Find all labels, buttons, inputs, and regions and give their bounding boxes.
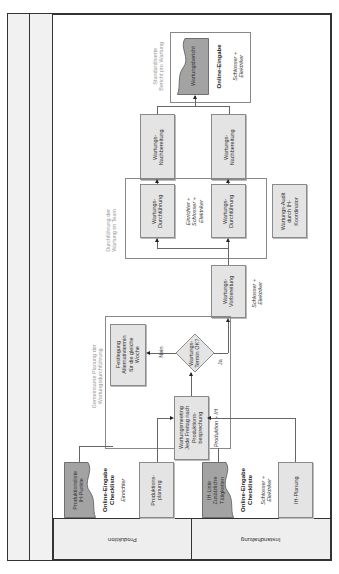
left-strip-outer [8, 14, 30, 560]
ih-liste-method: Online-Eingabe Checkliste [236, 462, 258, 518]
bericht-group-label: Standardisierte Bericht pro Wartung [146, 35, 170, 97]
ja-label: Ja [214, 355, 226, 369]
vorbereitung-box: Wartungs- Vorbereitung [211, 265, 246, 318]
produktionsliste-role: Einrichter [118, 462, 130, 518]
wartungsbericht-document: Wartungsbericht [177, 38, 209, 95]
nachbereitung-box-2: Wartungs- Nachbereitung [211, 114, 246, 180]
wartungsmeeting-box: Wartungsmeeting Jede Freitag nach Produk… [174, 396, 209, 460]
produktionsliste-method: Online-Eingabe Checkliste [98, 462, 120, 518]
bericht-method: Online-Eingabe [212, 38, 226, 95]
nachbereitung-box-1: Wartungs- Nachbereitung [140, 114, 175, 180]
nein-label: Nein [155, 340, 167, 364]
left-strip-inner [30, 14, 53, 560]
vorbereitung-role: Schlosser + Elektriker [247, 268, 267, 318]
durchfuehrung-box-1: Wartungs- Durchführung [140, 184, 175, 238]
durchfuehrung-role: Einrichter + Schlosser + Elektriker [180, 186, 208, 236]
lane-label-instandhaltung: Instandhaltung [191, 518, 331, 560]
festlegung-box: Festlegung Alternativtermin für die glei… [110, 324, 146, 386]
lane-label-produktion: Produktion [53, 518, 192, 560]
ih-liste-role: Schlosser + Elektriker [256, 462, 276, 518]
termin-decision: Wartungs- Termin OK? [175, 333, 215, 373]
wartungsmeeting-role: Produktion + IH [209, 398, 223, 458]
audit-box: Wartungs-Audit durch IH- Koordinator [272, 184, 307, 238]
arrow-icon [193, 95, 197, 99]
bericht-role: Schlosser + Elektriker [228, 38, 248, 95]
durchfuehrung-group-label: Durchführung der Wartung im Team [100, 190, 122, 270]
ih-planung-box: IH-Planung [278, 462, 313, 518]
ih-liste-document: IH-Liste Zusätzliche Tätigkeiten [202, 462, 234, 518]
durchfuehrung-box-2: Wartungs- Durchführung [211, 184, 246, 238]
produktionsliste-document: Produktionsliste IH-Punkte [64, 462, 96, 518]
produktionsplanung-box: Produktions- planung [139, 462, 174, 518]
